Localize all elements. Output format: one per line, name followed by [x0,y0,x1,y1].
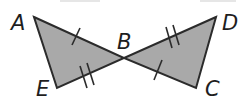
triangle-DBC [124,17,216,88]
geometry-diagram: A B D E C [0,0,243,102]
top-crop-artifact [200,0,236,2]
vertex-label-A: A [9,11,25,35]
vertex-label-C: C [205,77,220,101]
vertex-label-B: B [117,30,131,54]
top-crop-artifact [60,0,100,2]
vertex-label-E: E [36,77,50,101]
vertex-label-D: D [222,11,238,35]
